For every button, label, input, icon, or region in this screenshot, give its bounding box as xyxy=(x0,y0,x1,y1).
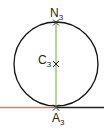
geometry-diagram: N3 C3 A3 xyxy=(0,0,104,129)
label-a3: A3 xyxy=(52,111,65,127)
label-n3: N3 xyxy=(50,6,64,22)
label-c3: C3 xyxy=(38,53,52,69)
